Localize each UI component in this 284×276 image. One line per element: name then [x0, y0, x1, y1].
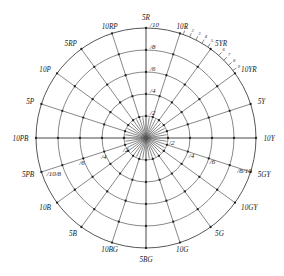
hue-spoke-198deg [41, 138, 146, 172]
grid-node [123, 137, 125, 139]
grid-node [171, 101, 173, 103]
grid-node [216, 85, 218, 87]
chroma-label-2-90: /2 [149, 109, 156, 117]
grid-node [119, 172, 121, 174]
grid-node [61, 164, 63, 166]
grid-node [187, 123, 189, 125]
grid-node [179, 241, 181, 243]
hue-spoke-288deg [146, 138, 180, 243]
hue-label-10P: 10P [39, 66, 51, 74]
grid-node [56, 72, 58, 74]
hue-spoke-324deg [146, 138, 235, 203]
grid-node [35, 137, 37, 139]
hue-spokes-group [36, 28, 256, 248]
chroma-label-108-198: /10/8 [46, 170, 62, 178]
grid-node [145, 159, 147, 161]
grid-node [101, 137, 103, 139]
hue-spoke-18deg [146, 104, 251, 138]
munsell-diagram-svg: 10Y5Y10YR5YR10R5R10RP5RP10P5P10PB5PB10B5… [0, 0, 284, 276]
grid-node [124, 200, 126, 202]
grid-node [111, 32, 113, 34]
outer-tick-label-5: 5 [211, 38, 214, 43]
grid-node [80, 226, 82, 228]
hue-spoke-234deg [81, 138, 146, 227]
outer-tick-9 [233, 68, 236, 71]
grid-node [106, 83, 108, 85]
grid-node [166, 144, 168, 146]
hue-spoke-162deg [41, 104, 146, 138]
grid-node [145, 27, 147, 29]
outer-tick-label-6: 6 [223, 47, 226, 52]
chroma-label-6-198: /6 [78, 159, 85, 167]
outer-tick-2 [190, 33, 192, 37]
grid-node [40, 103, 42, 105]
grid-node [74, 189, 76, 191]
grid-node [163, 124, 165, 126]
grid-node [216, 189, 218, 191]
grid-node [40, 171, 42, 173]
grid-node [165, 200, 167, 202]
grid-node [158, 119, 160, 121]
hue-label-5G: 5G [215, 230, 225, 238]
grid-node [184, 190, 186, 192]
hue-label-10B: 10B [39, 204, 51, 212]
grid-node [249, 103, 251, 105]
grid-node [138, 116, 140, 118]
grid-node [145, 247, 147, 249]
grid-node [158, 179, 160, 181]
hue-label-5GY: 5GY [258, 171, 272, 179]
grid-node [189, 137, 191, 139]
grid-node [103, 123, 105, 125]
chroma-label-6-342: /6 [209, 158, 216, 166]
hue-spoke-144deg [57, 73, 146, 138]
grid-node [124, 130, 126, 132]
hue-label-10BG: 10BG [101, 246, 119, 254]
hue-label-10PB: 10PB [13, 135, 30, 143]
grid-node [91, 176, 93, 178]
grid-node [197, 66, 199, 68]
outer-tick-6 [219, 52, 222, 55]
grid-node [180, 111, 182, 113]
grid-node [74, 85, 76, 87]
grid-node [158, 155, 160, 157]
grid-node [132, 155, 134, 157]
grid-node [61, 110, 63, 112]
grid-node [172, 53, 174, 55]
grid-node [119, 101, 121, 103]
grid-node [197, 208, 199, 210]
chroma-label-8-90: /8 [149, 43, 156, 51]
grid-node [145, 203, 147, 205]
grid-node [229, 164, 231, 166]
hue-spoke-126deg [81, 49, 146, 138]
hue-spoke-216deg [57, 138, 146, 203]
grid-node [56, 202, 58, 204]
grid-node [163, 150, 165, 152]
grid-node [106, 190, 108, 192]
chroma-label-810-342: /8/10 [236, 167, 252, 175]
hue-label-10Y: 10Y [264, 135, 276, 143]
grid-node [165, 74, 167, 76]
grid-node [145, 49, 147, 51]
hue-label-5Y: 5Y [258, 98, 267, 106]
hue-label-10G: 10G [176, 246, 189, 254]
grid-node [184, 83, 186, 85]
grid-node [198, 98, 200, 100]
outer-tick-7 [224, 57, 227, 60]
outer-tick-label-4: 4 [205, 34, 208, 39]
grid-node [234, 202, 236, 204]
outer-tick-labels-group: 123456789 [185, 25, 241, 69]
hue-label-5YR: 5YR [215, 40, 228, 48]
grid-node [118, 221, 120, 223]
grid-node [124, 74, 126, 76]
grid-node [145, 115, 147, 117]
grid-node [211, 137, 213, 139]
grid-node [127, 124, 129, 126]
grid-node [233, 137, 235, 139]
grid-node [234, 72, 236, 74]
grid-node [79, 137, 81, 139]
grid-node [152, 158, 154, 160]
outer-tick-label-8: 8 [233, 58, 236, 63]
grid-node [171, 172, 173, 174]
grid-node [208, 116, 210, 118]
grid-node [255, 137, 257, 139]
